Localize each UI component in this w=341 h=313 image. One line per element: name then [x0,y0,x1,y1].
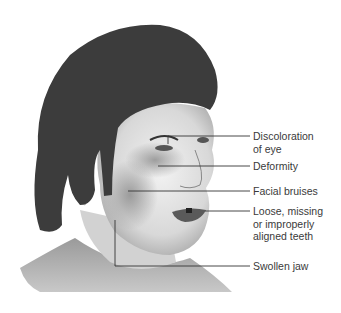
label-line: aligned teeth [253,230,323,243]
label-line: Facial bruises [253,185,318,198]
label-line: or improperly [253,218,323,231]
label-line: Discoloration [253,130,314,143]
label-facial-bruises: Facial bruises [253,185,318,198]
label-discoloration-of-eye: Discoloration of eye [253,130,314,155]
label-teeth: Loose, missing or improperly aligned tee… [253,205,323,243]
label-swollen-jaw: Swollen jaw [253,260,308,273]
label-line: Deformity [253,160,298,173]
label-line: of eye [253,143,314,156]
label-line: Swollen jaw [253,260,308,273]
label-deformity: Deformity [253,160,298,173]
label-line: Loose, missing [253,205,323,218]
